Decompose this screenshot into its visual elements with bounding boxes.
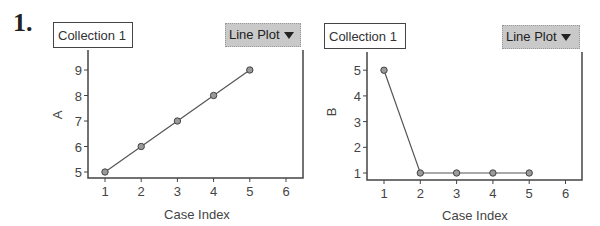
y-tick-label: 2 (354, 140, 361, 155)
x-tick-label: 3 (453, 186, 460, 201)
data-point (526, 170, 532, 176)
y-tick-label: 5 (354, 63, 361, 78)
line-chart-b: 12345123456Case IndexB (0, 0, 600, 226)
plot-panel-b: Collection 1 Line Plot 12345123456Case I… (0, 0, 300, 226)
data-point (417, 170, 423, 176)
data-point (490, 170, 496, 176)
axes-frame (367, 52, 582, 180)
y-tick-label: 3 (354, 115, 361, 130)
data-point (381, 67, 387, 73)
x-tick-label: 6 (562, 186, 569, 201)
x-tick-label: 5 (526, 186, 533, 201)
x-tick-label: 4 (489, 186, 496, 201)
x-axis-label: Case Index (442, 208, 508, 223)
y-tick-label: 1 (354, 166, 361, 181)
data-line (384, 70, 529, 173)
y-axis-label: B (324, 108, 339, 117)
x-tick-label: 2 (417, 186, 424, 201)
data-point (453, 170, 459, 176)
y-tick-label: 4 (354, 89, 361, 104)
x-tick-label: 1 (380, 186, 387, 201)
